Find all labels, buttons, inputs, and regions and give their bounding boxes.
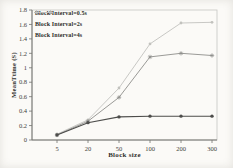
legend-item: Block Interval=4s xyxy=(33,30,87,40)
data-point-marker xyxy=(149,43,152,46)
data-point-marker xyxy=(118,87,121,90)
y-tick-label: 0.8 xyxy=(19,78,27,85)
y-tick-label: 1.4 xyxy=(19,35,28,42)
data-point-marker xyxy=(179,51,183,55)
y-tick-label: 0.4 xyxy=(19,107,28,114)
data-point-marker xyxy=(180,22,183,25)
data-point-marker xyxy=(148,114,151,117)
legend-item: Block Interval=2s xyxy=(33,19,87,29)
data-point-marker xyxy=(210,53,214,57)
series-line xyxy=(57,116,212,135)
chart-page: 00.20.40.60.811.21.41.61.852050100200300… xyxy=(0,0,233,168)
data-point-marker xyxy=(210,114,213,117)
chart-area: 00.20.40.60.811.21.41.61.852050100200300… xyxy=(0,0,233,168)
legend: Block Interval=0.5sBlock Interval=2sBloc… xyxy=(33,8,87,40)
data-point-marker xyxy=(179,114,182,117)
y-tick-label: 1.6 xyxy=(19,21,28,28)
y-tick-label: 1.2 xyxy=(19,50,27,57)
legend-item-label: Block Interval=4s xyxy=(35,32,82,38)
y-tick-label: 0.6 xyxy=(19,93,28,100)
data-point-marker xyxy=(86,121,89,124)
y-tick-label: 0.2 xyxy=(19,122,27,129)
data-point-marker xyxy=(55,133,58,136)
x-axis-title: Block size xyxy=(32,151,217,159)
data-point-marker xyxy=(117,115,120,118)
legend-marker-icon xyxy=(33,8,54,17)
data-point-marker xyxy=(211,21,214,24)
y-tick-label: 1 xyxy=(24,64,27,71)
y-tick-label: 0 xyxy=(24,136,27,143)
y-axis-title: MeanTtime (S) xyxy=(10,52,17,98)
legend-item-label: Block Interval=2s xyxy=(35,21,82,27)
y-tick-label: 1.8 xyxy=(19,6,27,13)
